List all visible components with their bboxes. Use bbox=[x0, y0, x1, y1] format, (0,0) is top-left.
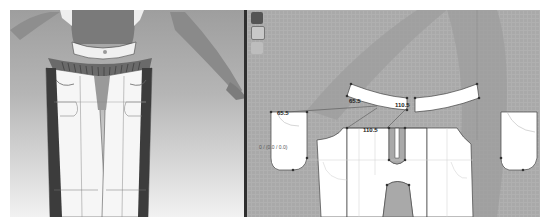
measurement-label: 65.5 bbox=[349, 98, 361, 104]
app-window: 65.5 65.5 110.5 110.5 0 / (0.0 / 0.0) bbox=[0, 0, 550, 223]
pattern-tool-icon[interactable] bbox=[251, 12, 263, 24]
coordinate-readout: 0 / (0.0 / 0.0) bbox=[259, 144, 287, 150]
pattern-2d-viewport[interactable]: 65.5 65.5 110.5 110.5 0 / (0.0 / 0.0) bbox=[247, 10, 540, 217]
transform-tool-icon[interactable] bbox=[251, 26, 265, 40]
pattern-canvas bbox=[247, 10, 540, 217]
avatar-3d-viewport[interactable] bbox=[10, 10, 244, 217]
edit-point-tool-icon[interactable] bbox=[251, 42, 263, 54]
measurement-label: 110.5 bbox=[363, 127, 378, 133]
measurement-label: 110.5 bbox=[395, 102, 410, 108]
measurement-label: 65.5 bbox=[277, 110, 289, 116]
avatar-3d-scene bbox=[10, 10, 244, 217]
